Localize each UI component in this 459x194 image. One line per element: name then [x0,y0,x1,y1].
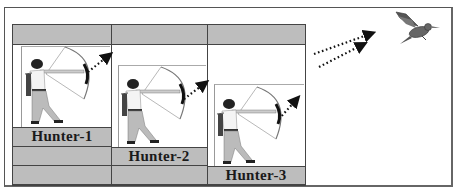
hunter-1-label: Hunter-1 [13,127,111,146]
arrow-icon [0,0,459,194]
bird-icon [392,10,442,48]
hunter-3-label: Hunter-3 [207,166,305,184]
hunter-2-label: Hunter-2 [111,147,207,166]
